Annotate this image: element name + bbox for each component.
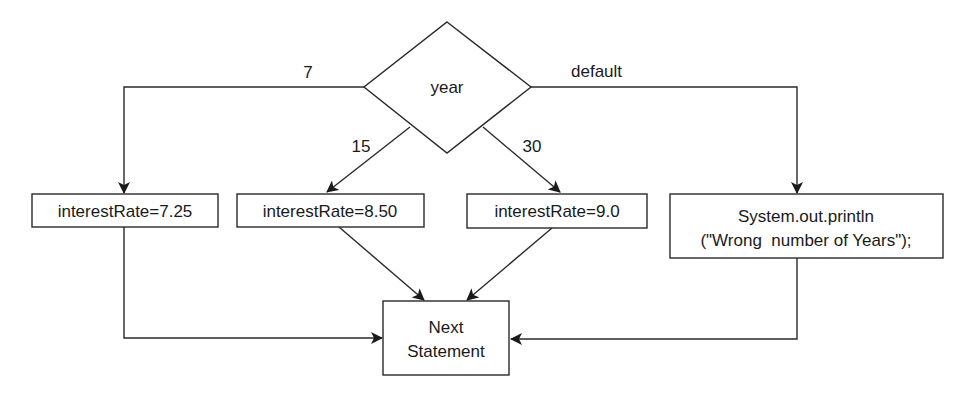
process-box [383, 301, 509, 375]
decision-label: year [430, 78, 463, 97]
edge-default-to-next [511, 258, 797, 339]
edge-rate-7-to-next [124, 227, 382, 338]
node-label: interestRate=7.25 [58, 202, 193, 221]
node-label-line1: System.out.println [738, 207, 874, 226]
node-rate-30: interestRate=9.0 [467, 194, 647, 228]
node-label-line2: ("Wrong number of Years"); [700, 231, 911, 250]
node-rate-7: interestRate=7.25 [32, 194, 218, 227]
edge-year-to-default [531, 87, 797, 193]
edge-rate-15-to-next [339, 227, 424, 300]
edge-label-default: default [571, 62, 622, 81]
node-label-line2: Statement [407, 342, 485, 361]
node-next-statement: Next Statement [383, 301, 509, 375]
switch-flowchart: year 7 default 15 30 interestRate=7.25 i… [0, 0, 970, 399]
edge-label-7: 7 [303, 63, 312, 82]
edge-rate-30-to-next [467, 228, 552, 300]
edge-year-to-rate-7 [124, 87, 364, 193]
edge-year-to-rate-30 [483, 127, 560, 192]
edge-label-30: 30 [523, 137, 542, 156]
node-label-line1: Next [429, 318, 464, 337]
decision-year: year [364, 22, 531, 153]
node-label: interestRate=8.50 [263, 202, 398, 221]
node-rate-15: interestRate=8.50 [237, 194, 424, 227]
node-default: System.out.println ("Wrong number of Yea… [670, 194, 943, 258]
edge-label-15: 15 [352, 137, 371, 156]
node-label: interestRate=9.0 [494, 202, 619, 221]
